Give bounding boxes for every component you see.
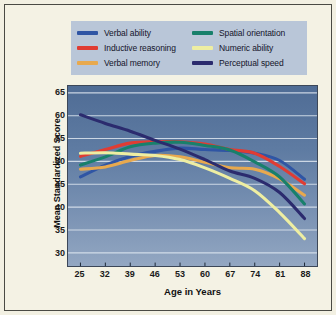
y-axis-tick-label: 50 [55, 156, 65, 166]
figure-paper: Verbal abilitySpatial orientationInducti… [4, 4, 332, 311]
legend-color-swatch [77, 46, 98, 50]
x-axis-title: Age in Years [67, 286, 318, 297]
legend-color-swatch [192, 61, 213, 65]
legend-item[interactable]: Spatial orientation [192, 25, 307, 40]
x-axis-tick-label: 60 [200, 269, 210, 279]
legend-item-label: Verbal ability [104, 28, 151, 38]
legend-item-label: Inductive reasoning [104, 43, 176, 53]
legend-color-swatch [192, 31, 213, 35]
x-axis-tick-label: 46 [150, 269, 160, 279]
y-axis-tick-label: 55 [55, 133, 65, 143]
legend-item-label: Perceptual speed [219, 58, 284, 68]
y-axis-tick-label: 45 [55, 179, 65, 189]
x-axis-tick-label: 53 [175, 269, 185, 279]
legend-grid: Verbal abilitySpatial orientationInducti… [77, 25, 301, 70]
plot-area [67, 85, 318, 267]
legend-item[interactable]: Verbal ability [77, 25, 192, 40]
chart-legend: Verbal abilitySpatial orientationInducti… [71, 21, 307, 75]
chart-lines-svg [68, 86, 317, 267]
figure-canvas: Verbal abilitySpatial orientationInducti… [0, 0, 336, 315]
x-axis-tick-label: 74 [250, 269, 260, 279]
legend-color-swatch [77, 61, 98, 65]
y-axis-tick-label: 60 [55, 110, 65, 120]
legend-item[interactable]: Perceptual speed [192, 55, 307, 70]
x-axis-tick-labels: 25323946536067748188 [67, 269, 318, 283]
y-axis-tick-label: 65 [55, 87, 65, 97]
x-axis-tick-label: 32 [100, 269, 110, 279]
y-axis-tick-label: 35 [55, 225, 65, 235]
y-axis-tick-label: 40 [55, 202, 65, 212]
legend-item-label: Spatial orientation [219, 28, 285, 38]
legend-item[interactable]: Numeric ability [192, 40, 307, 55]
legend-item-label: Numeric ability [219, 43, 273, 53]
x-axis-tick-label: 81 [275, 269, 285, 279]
y-axis-tick-label: 30 [55, 248, 65, 258]
legend-item[interactable]: Verbal memory [77, 55, 192, 70]
legend-item[interactable]: Inductive reasoning [77, 40, 192, 55]
plot-frame [67, 85, 318, 267]
x-axis-tick-label: 67 [225, 269, 235, 279]
x-axis-tick-label: 25 [75, 269, 85, 279]
x-axis-tick-label: 88 [300, 269, 310, 279]
x-axis-tick-label: 39 [125, 269, 135, 279]
legend-color-swatch [192, 46, 213, 50]
y-axis-tick-labels: 6560555045403530 [41, 85, 65, 267]
legend-color-swatch [77, 31, 98, 35]
legend-item-label: Verbal memory [104, 58, 160, 68]
